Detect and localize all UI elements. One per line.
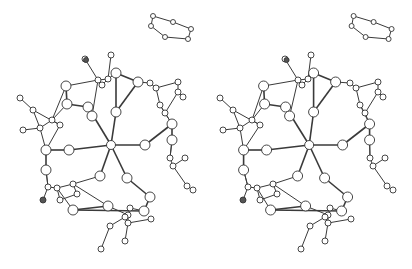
atom	[266, 205, 276, 215]
atom	[309, 107, 319, 117]
atom	[148, 216, 154, 222]
atom	[367, 155, 373, 161]
bond	[328, 219, 351, 223]
atom	[386, 37, 391, 42]
atom	[83, 102, 93, 112]
atom	[357, 102, 363, 108]
atom	[370, 163, 376, 169]
atom	[107, 141, 116, 150]
bond	[92, 80, 98, 116]
atom	[61, 81, 71, 91]
bond	[290, 80, 298, 116]
atom	[45, 184, 51, 190]
atom	[20, 127, 26, 133]
atom	[257, 122, 263, 128]
atom	[41, 145, 51, 155]
atom	[163, 35, 168, 40]
atom	[62, 99, 72, 109]
bond	[267, 145, 310, 150]
atom	[285, 111, 295, 121]
bond	[309, 145, 324, 178]
atom	[189, 27, 194, 32]
bond	[314, 82, 336, 112]
atom	[237, 125, 243, 131]
atom	[57, 197, 63, 203]
atom	[167, 135, 177, 145]
atom	[322, 238, 328, 244]
atom	[220, 127, 226, 133]
bond	[373, 166, 387, 186]
atom	[30, 107, 36, 113]
atom	[353, 85, 359, 91]
bond	[101, 226, 110, 249]
atom	[249, 117, 255, 123]
atom	[343, 192, 353, 202]
atom	[139, 206, 149, 216]
atom	[54, 185, 60, 191]
bond	[33, 110, 60, 125]
atom	[57, 122, 63, 128]
atom	[307, 223, 313, 229]
atom	[111, 107, 121, 117]
atom	[68, 205, 78, 215]
atom	[170, 163, 176, 169]
atom	[308, 52, 314, 58]
atom	[245, 184, 251, 190]
bond	[173, 166, 187, 186]
atom	[327, 205, 333, 211]
atom	[362, 110, 368, 116]
atom	[295, 77, 301, 83]
atom	[40, 197, 46, 203]
atom	[167, 155, 173, 161]
atom	[380, 94, 386, 100]
atom	[365, 119, 375, 129]
atom	[98, 246, 104, 252]
atom	[382, 155, 388, 161]
left-stereo-view	[17, 14, 196, 253]
atom	[262, 145, 272, 155]
atom	[153, 85, 159, 91]
atom	[375, 89, 381, 95]
atom	[122, 214, 128, 220]
atom	[171, 20, 176, 25]
atom	[84, 58, 89, 63]
atom	[240, 197, 246, 203]
bond	[116, 82, 138, 112]
atom	[111, 68, 121, 78]
bond	[165, 37, 188, 39]
atom	[17, 95, 23, 101]
atom	[293, 171, 303, 181]
bond	[365, 92, 378, 113]
atom	[363, 35, 368, 40]
atom	[74, 191, 80, 197]
atom	[175, 89, 181, 95]
atom	[127, 205, 133, 211]
atom	[371, 20, 376, 25]
molecule-svg	[0, 0, 412, 269]
atom	[162, 110, 168, 116]
bond	[108, 55, 111, 79]
atom	[305, 141, 314, 150]
atom	[270, 181, 276, 187]
atom	[108, 52, 114, 58]
atom	[37, 125, 43, 131]
atom	[95, 77, 101, 83]
atom	[95, 171, 105, 181]
atom	[182, 155, 188, 161]
atom	[338, 140, 348, 150]
atom	[49, 117, 55, 123]
atom	[349, 24, 354, 29]
bond	[366, 37, 389, 39]
bond	[301, 226, 310, 249]
atom	[175, 79, 181, 85]
atom	[257, 197, 263, 203]
atom	[298, 246, 304, 252]
atom	[347, 80, 353, 86]
atom	[331, 77, 341, 87]
atom	[99, 82, 105, 88]
atom	[133, 77, 143, 87]
atom	[239, 165, 249, 175]
atom	[149, 24, 154, 29]
atom	[337, 206, 347, 216]
atom	[41, 165, 51, 175]
